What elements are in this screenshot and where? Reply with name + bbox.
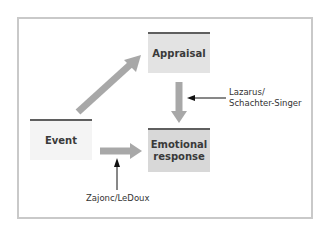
arrow-event-to-emotional	[100, 143, 142, 159]
node-event-label: Event	[45, 135, 77, 147]
annotation-lazarus-line2: Schachter-Singer	[229, 98, 302, 109]
node-appraisal: Appraisal	[148, 32, 210, 73]
arrow-event-to-appraisal	[78, 55, 141, 112]
node-event: Event	[30, 119, 92, 160]
node-appraisal-label: Appraisal	[152, 48, 205, 60]
pointer-zajonc	[114, 158, 120, 190]
node-emotional-response: Emotional response	[148, 128, 210, 172]
node-emotional-line1: Emotional	[151, 139, 208, 151]
pointer-lazarus	[187, 95, 226, 101]
arrow-appraisal-to-emotional	[171, 82, 187, 123]
node-emotional-line2: response	[151, 151, 208, 163]
annotation-lazarus: Lazarus/ Schachter-Singer	[229, 87, 302, 109]
annotation-zajonc: Zajonc/LeDoux	[86, 193, 150, 204]
annotation-lazarus-line1: Lazarus/	[229, 87, 302, 98]
